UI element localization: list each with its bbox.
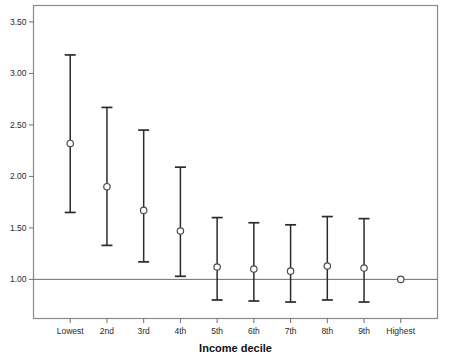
data-point-marker [324, 263, 330, 269]
data-point-marker [140, 207, 146, 213]
data-point-marker [287, 268, 293, 274]
y-axis-tick-label: 2.00 [10, 171, 27, 181]
y-axis-tick-label: 3.50 [10, 17, 27, 27]
x-axis-tick-label: Lowest [57, 326, 85, 336]
y-axis-tick-label: 1.50 [10, 223, 27, 233]
x-axis-tick-label: 9th [358, 326, 370, 336]
x-axis-tick-label: 3rd [138, 326, 151, 336]
data-point-marker [214, 264, 220, 270]
data-point-group [398, 276, 404, 282]
y-axis-tick-label: 3.00 [10, 68, 27, 78]
x-axis-tick-label: 5th [211, 326, 223, 336]
x-axis-tick-label: 4th [174, 326, 186, 336]
data-point-marker [398, 276, 404, 282]
x-axis-tick-label: 8th [321, 326, 333, 336]
data-point-marker [251, 266, 257, 272]
data-point-marker [104, 184, 110, 190]
x-axis-tick-label: 2nd [100, 326, 114, 336]
x-axis-tick-label: 7th [285, 326, 297, 336]
data-point-marker [67, 140, 73, 146]
error-bar-chart: 1.001.502.002.503.003.50 Lowest2nd3rd4th… [0, 0, 451, 363]
x-axis-tick-label: 6th [248, 326, 260, 336]
y-axis-tick-label: 2.50 [10, 120, 27, 130]
y-axis-tick-label: 1.00 [10, 274, 27, 284]
data-point-marker [177, 228, 183, 234]
data-point-marker [361, 265, 367, 271]
chart-canvas: 1.001.502.002.503.003.50 Lowest2nd3rd4th… [0, 0, 451, 363]
x-axis-tick-label: Highest [386, 326, 415, 336]
x-axis-title: Income decile [199, 342, 272, 354]
